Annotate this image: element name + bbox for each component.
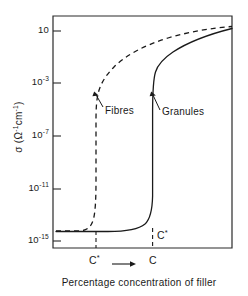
threshold-star: * — [97, 253, 100, 262]
y-tick-exponent: -3 — [43, 75, 49, 82]
y-axis-exp1: -1 — [12, 125, 19, 131]
y-axis-exp2: -1 — [12, 105, 19, 111]
threshold-c: C — [89, 254, 97, 266]
y-axis-title: σ (Ω-1cm-1) — [13, 101, 24, 152]
granules-label: Granules — [162, 106, 204, 117]
y-tick-label-4: 10-15 — [6, 234, 49, 245]
fibres-arrowhead — [92, 91, 98, 96]
plot-frame — [53, 16, 232, 248]
y-tick-label-0: 10 — [8, 24, 49, 35]
y-tick-mantissa: 10 — [38, 24, 49, 35]
figure-container: 10 10-3 10-7 10-11 10-15 σ (Ω-1cm-1) Fib… — [0, 0, 248, 296]
y-tick-exponent: -15 — [39, 233, 49, 240]
y-tick-mantissa: 10 — [28, 182, 39, 193]
y-tick-mantissa: 10 — [32, 76, 43, 87]
y-axis-open: (Ω — [13, 132, 24, 146]
y-axis-mid: cm — [13, 111, 24, 125]
threshold-star: * — [165, 228, 168, 237]
y-tick-mantissa: 10 — [32, 129, 43, 140]
threshold-label-fibres: C* — [89, 254, 100, 266]
series-curve-fibres — [56, 27, 232, 232]
y-axis-close: ) — [13, 101, 24, 105]
y-axis-title-wrapper: σ (Ω-1cm-1) — [8, 79, 26, 175]
x-axis-title: Percentage concentration of filler — [39, 277, 239, 288]
granules-leader — [150, 91, 160, 110]
x-direction-arrow — [112, 261, 136, 267]
threshold-label-granules-inner: C* — [157, 229, 168, 241]
fibres-label: Fibres — [105, 105, 134, 116]
y-axis-sigma: σ — [13, 146, 24, 152]
y-tick-exponent: -7 — [43, 128, 49, 135]
y-axis-ticks — [53, 31, 61, 241]
percolation-conductivity-plot — [0, 0, 248, 296]
y-tick-mantissa: 10 — [28, 234, 39, 245]
y-tick-exponent: -11 — [39, 181, 49, 188]
series-curve-granules — [56, 29, 232, 232]
y-tick-label-3: 10-11 — [6, 182, 49, 193]
x-direction-arrowhead — [130, 261, 136, 267]
threshold-label-granules-axis: C — [149, 254, 157, 266]
threshold-c: C — [157, 229, 165, 241]
